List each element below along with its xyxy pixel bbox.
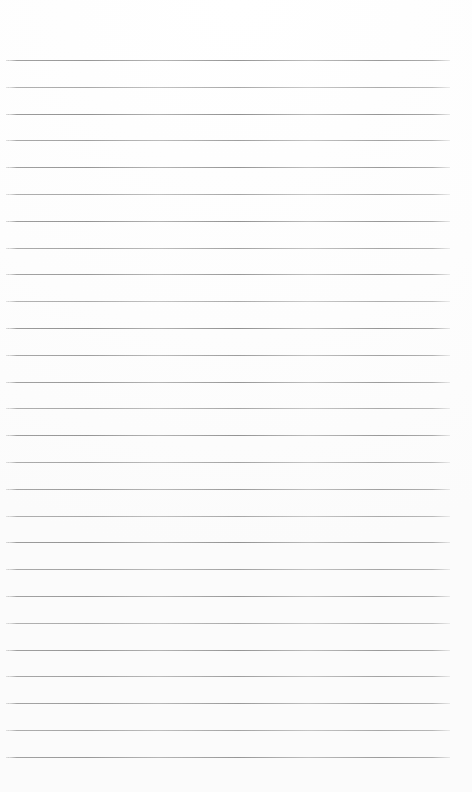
lined-paper-page: Blank ruled paper [0,0,472,792]
ruled-line [8,140,450,141]
ruled-line [8,60,450,61]
ruled-line [8,757,450,758]
ruled-line [8,569,450,570]
ruled-line [8,382,450,383]
ruled-line [8,516,450,517]
ruled-line [8,462,450,463]
ruled-line [8,114,450,115]
ruled-line [8,355,450,356]
ruled-lines-layer [0,0,472,792]
ruled-line [8,703,450,704]
ruled-line [8,435,450,436]
ruled-line [8,623,450,624]
ruled-line [8,301,450,302]
ruled-line [8,87,450,88]
ruled-line [8,408,450,409]
ruled-line [8,730,450,731]
ruled-line [8,328,450,329]
ruled-line [8,596,450,597]
ruled-line [8,167,450,168]
ruled-line [8,489,450,490]
ruled-line [8,274,450,275]
ruled-line [8,542,450,543]
ruled-line [8,676,450,677]
ruled-line [8,194,450,195]
ruled-line [8,248,450,249]
ruled-line [8,221,450,222]
ruled-line [8,650,450,651]
